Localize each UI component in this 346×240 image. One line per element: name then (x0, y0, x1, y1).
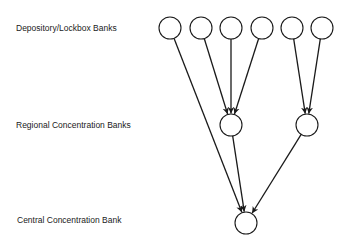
flow-arrow (235, 38, 259, 114)
depository-bank-node (220, 17, 242, 39)
flow-arrow (204, 39, 227, 115)
depository-bank-node (251, 17, 273, 39)
depository-bank-node (190, 17, 212, 39)
central-bank-node (235, 212, 257, 234)
regional-bank-node (220, 114, 242, 136)
bank-nodes (159, 17, 333, 234)
flow-arrow (309, 39, 321, 114)
flow-arrow (294, 39, 306, 114)
depository-bank-node (159, 17, 181, 39)
depository-bank-node (281, 17, 303, 39)
flow-arrow (233, 136, 245, 212)
depository-bank-node (311, 17, 333, 39)
bank-hierarchy-diagram (0, 0, 346, 240)
flow-arrow (252, 134, 301, 213)
regional-bank-node (296, 114, 318, 136)
